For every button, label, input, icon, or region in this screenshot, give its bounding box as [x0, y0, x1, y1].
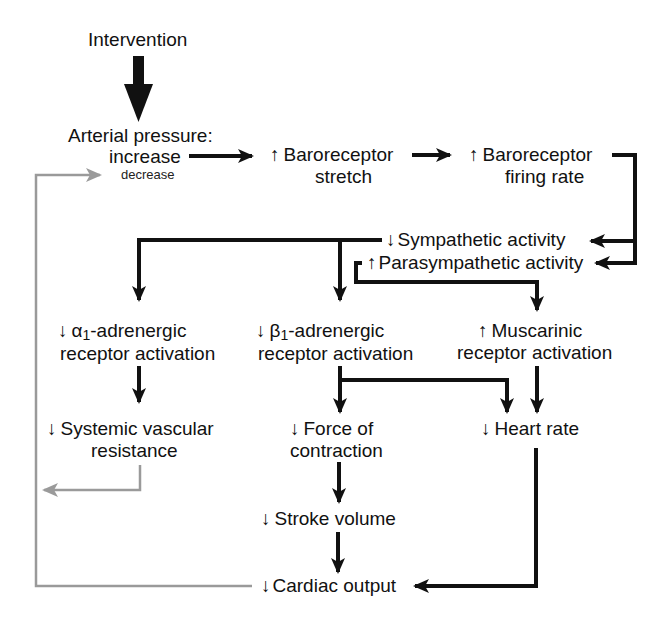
svr-line1: Systemic vascular — [61, 418, 214, 439]
up-arrow-icon: ↑ — [270, 144, 280, 166]
beta-symbol: β — [270, 320, 281, 341]
edge-svr-feedback — [44, 465, 140, 490]
edge-intervention-pressure — [124, 56, 153, 122]
force-line1: Force of — [304, 418, 374, 439]
alpha-symbol: α — [72, 320, 83, 341]
down-arrow-icon: ↓ — [261, 575, 271, 597]
intervention-label: Intervention — [88, 29, 187, 50]
down-arrow-icon: ↓ — [386, 229, 396, 251]
down-arrow-icon: ↓ — [47, 418, 57, 440]
alpha1-line1: -adrenergic — [90, 320, 186, 341]
baro-firing-line2: firing rate — [469, 166, 592, 188]
node-sympathetic: ↓Sympathetic activity — [386, 229, 565, 251]
edge-sympathetic-alpha1 — [139, 240, 382, 300]
beta1-line1: -adrenergic — [288, 320, 384, 341]
stroke-volume-label: Stroke volume — [275, 508, 396, 529]
decrease-label: decrease — [121, 167, 174, 182]
alpha1-line2: receptor activation — [58, 343, 215, 365]
alpha-subscript: 1 — [82, 327, 90, 343]
node-stroke-volume: ↓Stroke volume — [261, 508, 396, 530]
force-line2: contraction — [290, 440, 383, 461]
up-arrow-icon: ↑ — [469, 144, 479, 166]
edge-heartrate-cardiacoutput — [415, 448, 536, 586]
parasympathetic-label: Parasympathetic activity — [379, 252, 584, 273]
heart-rate-label: Heart rate — [495, 418, 579, 439]
down-arrow-icon: ↓ — [481, 418, 491, 440]
down-arrow-icon: ↓ — [256, 320, 266, 342]
pressure-decrease: decrease — [121, 167, 174, 182]
node-force-of-contraction: ↓Force of — [290, 418, 373, 440]
edge-beta1-heartrate — [340, 380, 507, 412]
node-alpha1: ↓α1-adrenergic receptor activation — [58, 320, 215, 365]
down-arrow-icon: ↓ — [58, 320, 68, 342]
svr-line2: resistance — [47, 440, 214, 462]
baro-firing-line1: Baroreceptor — [483, 144, 593, 165]
node-intervention: Intervention — [88, 29, 187, 51]
muscarinic-line1: Muscarinic — [492, 320, 583, 341]
node-arterial-pressure: Arterial pressure: — [68, 125, 213, 147]
arterial-pressure-label: Arterial pressure: — [68, 125, 213, 147]
cardiac-output-label: Cardiac output — [273, 575, 397, 596]
baroreflex-diagram: Intervention Arterial pressure: increase… — [0, 0, 666, 618]
beta-subscript: 1 — [280, 327, 288, 343]
pressure-increase: increase — [109, 146, 181, 168]
node-parasympathetic: ↑Parasympathetic activity — [367, 252, 583, 274]
node-baroreceptor-stretch: ↑Baroreceptor stretch — [270, 144, 393, 188]
beta1-line2: receptor activation — [256, 343, 413, 365]
edge-firing-parasympathetic — [596, 155, 635, 263]
down-arrow-icon: ↓ — [261, 508, 271, 530]
node-cardiac-output: ↓Cardiac output — [261, 575, 396, 597]
node-systemic-vascular-resistance: ↓Systemic vascular resistance — [47, 418, 214, 462]
node-heart-rate: ↓Heart rate — [481, 418, 579, 440]
node-muscarinic-line2: receptor activation — [457, 342, 612, 364]
increase-label: increase — [109, 146, 181, 167]
node-muscarinic: ↑Muscarinic — [478, 320, 582, 342]
edge-cardiacoutput-feedback — [36, 175, 252, 586]
baro-stretch-line1: Baroreceptor — [284, 144, 394, 165]
up-arrow-icon: ↑ — [478, 320, 488, 342]
up-arrow-icon: ↑ — [367, 252, 377, 274]
node-baroreceptor-firing: ↑Baroreceptor firing rate — [469, 144, 592, 188]
node-beta1: ↓β1-adrenergic receptor activation — [256, 320, 413, 365]
baro-stretch-line2: stretch — [270, 166, 393, 188]
down-arrow-icon: ↓ — [290, 418, 300, 440]
muscarinic-line2: receptor activation — [457, 342, 612, 363]
sympathetic-label: Sympathetic activity — [398, 229, 566, 250]
node-force-line2: contraction — [290, 440, 383, 462]
